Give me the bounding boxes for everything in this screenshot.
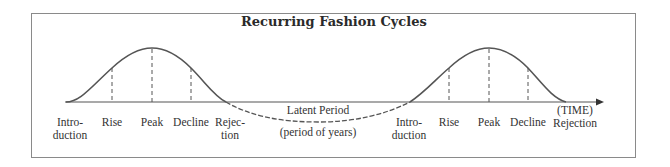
label-line: Peak — [141, 116, 163, 129]
cycle2-rise-label: Rise — [439, 116, 459, 129]
label-line: Intro- — [392, 116, 427, 129]
fashion-cycle-diagram — [0, 0, 670, 167]
time-label: (TIME) — [553, 104, 597, 117]
label-line: Rejec- — [215, 116, 245, 129]
label-line: Rise — [439, 116, 459, 129]
cycle1-introduction-label: Intro- duction — [53, 116, 88, 142]
label-line: duction — [392, 129, 427, 142]
latent-subtitle: (period of years) — [280, 126, 357, 139]
label-line: Intro- — [53, 116, 88, 129]
cycle2-curve — [410, 48, 566, 102]
label-line: tion — [215, 129, 245, 142]
label-line: Peak — [478, 116, 500, 129]
cycle2-rejection-label: Rejection — [553, 117, 597, 130]
cycle1-rise-label: Rise — [102, 116, 122, 129]
latent-period-label: Latent Period — [287, 104, 349, 117]
label-line: Rise — [102, 116, 122, 129]
cycle1-rejection-label: Rejec- tion — [215, 116, 245, 142]
latent-title: Latent Period — [287, 104, 349, 117]
label-line: Decline — [173, 116, 209, 129]
cycle2-decline-label: Decline — [510, 116, 546, 129]
arrow-right-icon — [596, 99, 604, 106]
label-line: Decline — [510, 116, 546, 129]
cycle1-peak-label: Peak — [141, 116, 163, 129]
cycle2-peak-label: Peak — [478, 116, 500, 129]
cycle1-curve — [66, 48, 226, 102]
cycle1-decline-label: Decline — [173, 116, 209, 129]
time-axis-label: (TIME) Rejection — [553, 104, 597, 130]
label-line: duction — [53, 129, 88, 142]
cycle2-introduction-label: Intro- duction — [392, 116, 427, 142]
latent-period-sublabel: (period of years) — [280, 126, 357, 139]
